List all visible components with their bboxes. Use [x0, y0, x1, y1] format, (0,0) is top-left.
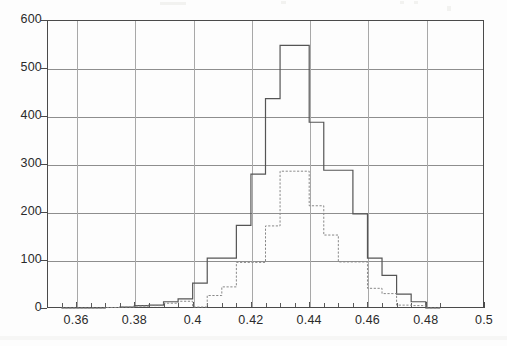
scan-artifact — [281, 1, 286, 4]
y-tick-label: 0 — [35, 300, 42, 314]
x-tick-label: 0.36 — [64, 313, 89, 327]
y-tick-label: 100 — [21, 252, 42, 266]
series-layer — [47, 20, 484, 308]
y-tick-label: 300 — [21, 156, 42, 170]
x-tick-label: 0.48 — [413, 313, 438, 327]
scan-artifact — [160, 2, 186, 5]
scan-artifact — [414, 1, 418, 4]
scan-artifact — [400, 1, 404, 4]
y-tick-label: 600 — [21, 12, 42, 26]
y-tick-label: 500 — [21, 60, 42, 74]
x-tick-mark — [484, 302, 485, 308]
x-tick-label: 0.44 — [297, 313, 322, 327]
x-tick-label: 0.42 — [238, 313, 263, 327]
x-tick-label: 0.46 — [355, 313, 380, 327]
series-solid-histogram — [62, 45, 441, 308]
x-tick-label: 0.38 — [122, 313, 147, 327]
scan-artifact — [447, 6, 451, 11]
x-tick-label: 0.4 — [184, 313, 202, 327]
scan-artifact — [0, 336, 507, 340]
x-tick-label: 0.5 — [475, 313, 493, 327]
y-tick-label: 200 — [21, 204, 42, 218]
histogram-figure: 0100200300400500600 0.360.380.40.420.440… — [0, 0, 507, 346]
histogram-outline-solid — [62, 45, 441, 308]
y-tick-label: 400 — [21, 108, 42, 122]
